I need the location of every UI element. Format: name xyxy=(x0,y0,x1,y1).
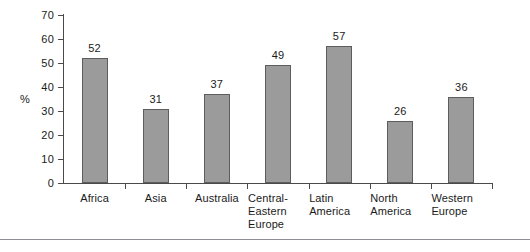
x-axis-category-label-line: America xyxy=(309,205,369,218)
x-axis-category-label-line: Africa xyxy=(65,192,125,205)
x-axis-category-label: NorthAmerica xyxy=(370,192,430,218)
x-axis-category-label: Australia xyxy=(187,192,247,205)
x-axis-tick xyxy=(309,183,310,189)
x-axis-category-label: Africa xyxy=(65,192,125,205)
y-axis-tick-label: 0 xyxy=(0,178,54,189)
x-axis-line xyxy=(63,183,492,184)
x-axis-category-label-line: North xyxy=(370,192,430,205)
footer-divider xyxy=(0,239,530,240)
x-axis-category-label-line: Latin xyxy=(309,192,369,205)
x-axis-tick xyxy=(125,183,126,189)
x-axis-category-label-line: Europe xyxy=(431,205,491,218)
x-axis-category-label: WesternEurope xyxy=(431,192,491,218)
y-axis-tick-label: 40 xyxy=(0,82,54,93)
bar-value-label: 31 xyxy=(126,94,186,105)
x-axis-category-label: Asia xyxy=(126,192,186,205)
x-axis-tick xyxy=(492,183,493,189)
y-axis-tick-label: 60 xyxy=(0,34,54,45)
y-axis-tick-label: 10 xyxy=(0,154,54,165)
bar xyxy=(387,121,413,183)
y-axis-tick-label: 50 xyxy=(0,58,54,69)
bar xyxy=(204,94,230,183)
bar-value-label: 49 xyxy=(248,50,308,61)
x-axis-category-label: Central-EasternEurope xyxy=(248,192,308,231)
x-axis-category-label-line: Asia xyxy=(126,192,186,205)
y-axis-tick-labels: 010203040506070 xyxy=(0,0,54,252)
bar-value-label: 26 xyxy=(370,106,430,117)
x-axis-category-label-line: Central- xyxy=(248,192,308,205)
bar xyxy=(265,65,291,183)
x-axis-tick xyxy=(370,183,371,189)
y-axis-tick-label: 20 xyxy=(0,130,54,141)
y-axis-tick xyxy=(58,183,64,184)
bar-value-label: 52 xyxy=(65,43,125,54)
x-axis-category-label-line: Eastern xyxy=(248,205,308,218)
bar xyxy=(326,46,352,183)
bar-value-label: 37 xyxy=(187,79,247,90)
bar-chart-figure: % 010203040506070 52313749572636 AfricaA… xyxy=(0,0,530,252)
x-axis-category-label: LatinAmerica xyxy=(309,192,369,218)
bar xyxy=(448,97,474,183)
bar xyxy=(82,58,108,183)
x-axis-tick xyxy=(431,183,432,189)
bar-value-label: 57 xyxy=(309,31,369,42)
x-axis-category-label-line: America xyxy=(370,205,430,218)
bar xyxy=(143,109,169,183)
y-axis-tick-label: 30 xyxy=(0,106,54,117)
x-axis-category-label-line: Western xyxy=(431,192,491,205)
x-axis-tick xyxy=(186,183,187,189)
y-axis-tick-label: 70 xyxy=(0,10,54,21)
x-axis-category-label-line: Europe xyxy=(248,218,308,231)
bar-value-label: 36 xyxy=(431,82,491,93)
x-axis-tick xyxy=(247,183,248,189)
x-axis-category-label-line: Australia xyxy=(187,192,247,205)
